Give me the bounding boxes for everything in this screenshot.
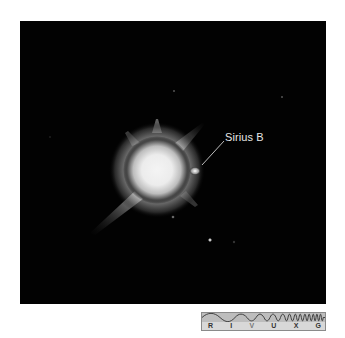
background-star: [281, 96, 283, 98]
wavelength-wave-icon: [202, 313, 325, 322]
background-star: [173, 90, 175, 92]
sirius-b-label: Sirius B: [225, 131, 264, 143]
sirius-b: [189, 167, 201, 176]
spectrum-band-indicator: R I V U X G: [201, 312, 326, 331]
band-v: V: [249, 322, 254, 330]
background-star: [49, 136, 51, 138]
band-g: G: [316, 322, 321, 330]
band-i: I: [230, 322, 232, 330]
band-x: X: [294, 322, 299, 330]
sirius-star-field: [20, 21, 326, 304]
astronomical-image: Sirius B: [20, 21, 326, 304]
annotation-pointer-line: [202, 141, 224, 165]
background-star: [208, 238, 212, 242]
background-star: [172, 216, 175, 219]
sirius-a: [123, 136, 191, 204]
spectrum-band-labels: R I V U X G: [202, 322, 325, 330]
background-star: [233, 241, 235, 243]
band-u: U: [271, 322, 276, 330]
band-r: R: [208, 322, 213, 330]
